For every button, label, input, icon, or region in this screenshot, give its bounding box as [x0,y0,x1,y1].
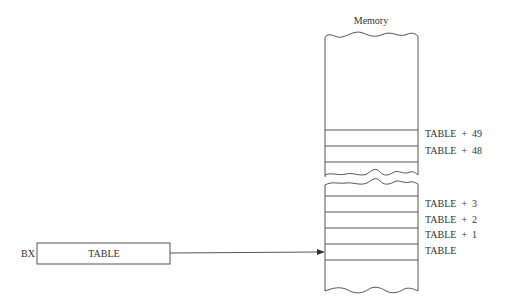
label-table-plus-2: TABLE + 2 [425,214,477,225]
memory-lower-segment [325,179,418,293]
memory-title: Memory [354,15,388,26]
register-value: TABLE [88,248,119,259]
label-table-plus-3: TABLE + 3 [425,198,477,209]
label-table-plus-48: TABLE + 48 [425,145,482,156]
pointer-arrow-line [170,252,318,253]
label-table-plus-49: TABLE + 49 [425,128,482,139]
bottom-break-wave [325,287,418,293]
register-name: BX [21,248,36,259]
top-break-wave [325,32,418,37]
memory-diagram: Memory TABLE + 49 TABLE + 48 TABLE + 3 T… [0,0,508,304]
middle-break-wave-upper [325,169,418,175]
label-table: TABLE [425,245,456,256]
arrowhead-icon [317,249,325,255]
middle-break-wave-lower [325,179,418,185]
label-table-plus-1: TABLE + 1 [425,229,477,240]
memory-upper-segment [325,32,418,177]
